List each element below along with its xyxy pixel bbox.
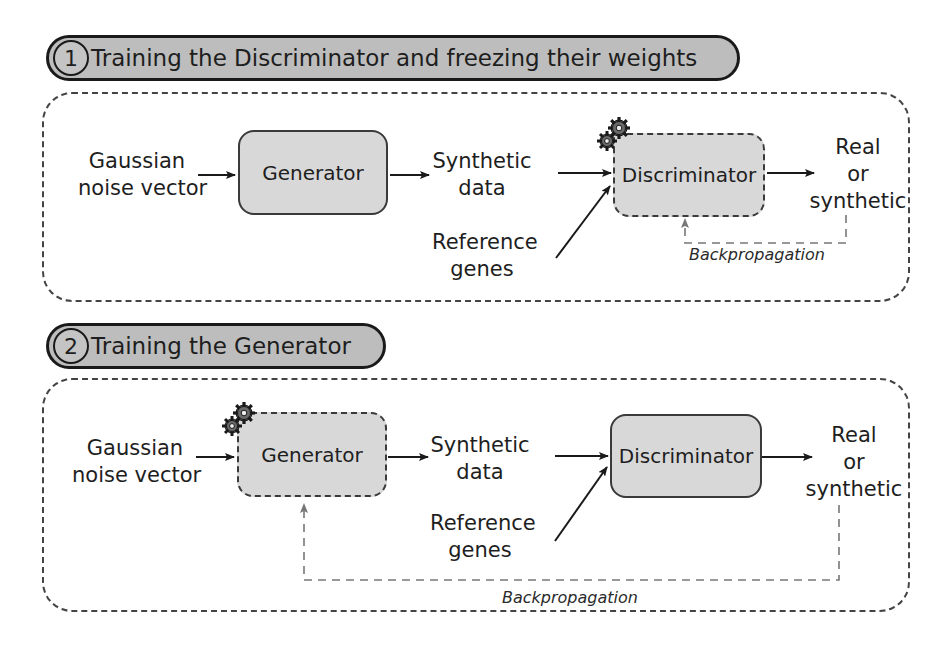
- step-2-flow-arrows: [196, 456, 812, 541]
- step-1-backprop-path: [685, 215, 846, 243]
- arrows-layer: [0, 0, 943, 659]
- step-1-flow-arrows: [198, 173, 814, 258]
- step-1-backprop-arrowhead: [681, 218, 689, 228]
